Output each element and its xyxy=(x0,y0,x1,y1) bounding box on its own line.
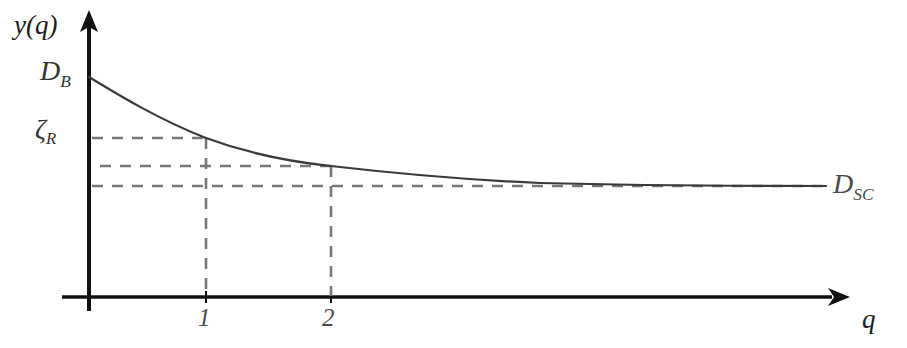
label-zeta-r-base: ζ xyxy=(35,114,46,144)
label-zeta-r: ζR xyxy=(35,116,56,148)
y-axis-label: y(q) xyxy=(14,12,57,39)
label-d-sc: DSC xyxy=(833,170,874,203)
label-d-sc-subscript: SC xyxy=(853,185,873,204)
curve-yq xyxy=(89,77,826,186)
x-axis xyxy=(62,288,850,306)
label-d-b-base: D xyxy=(40,55,60,86)
x-axis-label: q xyxy=(862,306,876,333)
plot-canvas xyxy=(0,0,907,348)
label-d-b-subscript: B xyxy=(60,72,71,91)
x-tick-label-1: 1 xyxy=(198,305,211,330)
y-axis xyxy=(80,10,98,311)
x-tick-label-2: 2 xyxy=(322,305,335,330)
figure-container: y(q) q DB ζR DSC 1 2 xyxy=(0,0,907,348)
label-zeta-r-subscript: R xyxy=(46,129,56,148)
label-d-sc-base: D xyxy=(833,168,853,199)
label-d-b: DB xyxy=(40,57,71,90)
